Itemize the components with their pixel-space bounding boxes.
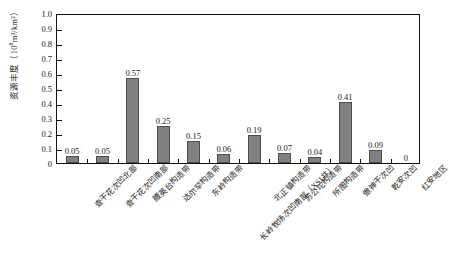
y-axis-title: 资源丰度（108m³/km²） <box>8 0 19 114</box>
bar <box>369 150 382 164</box>
y-axis-tick-mark <box>57 135 62 136</box>
x-axis-tick-mark <box>148 159 149 163</box>
bar-value-label: 0 <box>389 154 423 163</box>
plot-area: 0.050.050.570.250.150.060.190.070.040.41… <box>56 14 420 164</box>
y-axis-title-name: 资源丰度（10 <box>9 45 19 100</box>
bar-value-label: 0.19 <box>237 126 271 135</box>
x-axis-category-labels: 查干花次凹北部查干花次凹南部腰英台构造带达尔罕构造带东岭构造带长岭牧场次凹南部（… <box>56 164 446 269</box>
bar <box>96 156 109 164</box>
bar <box>248 135 261 164</box>
y-axis-tick-label: 0.4 <box>22 100 52 109</box>
x-axis-tick-mark <box>300 159 301 163</box>
y-axis-tick-label: 0 <box>22 160 52 169</box>
y-axis-tick-label: 0.5 <box>22 85 52 94</box>
x-axis-tick-mark <box>118 159 119 163</box>
y-axis-tick-mark <box>57 105 62 106</box>
y-axis-tick-mark <box>57 120 62 121</box>
bar <box>278 153 291 164</box>
bar <box>66 156 79 164</box>
bar-value-label: 0.57 <box>116 69 150 78</box>
x-axis-tick-mark <box>178 159 179 163</box>
bar-value-label: 0.06 <box>207 145 241 154</box>
bar-value-label: 0.05 <box>86 147 120 156</box>
x-axis-category-label: 红安地区 <box>420 164 449 193</box>
x-axis-tick-mark <box>269 159 270 163</box>
y-axis-tick-mark <box>57 90 62 91</box>
bar <box>157 126 170 164</box>
y-axis-tick-label: 1.0 <box>22 10 52 19</box>
y-axis-tick-mark <box>57 75 62 76</box>
bar <box>217 154 230 163</box>
bar-value-label: 0.05 <box>55 147 89 156</box>
y-axis-title-exponent: 8 <box>8 42 14 45</box>
bar <box>126 78 139 164</box>
x-axis-tick-mark <box>239 159 240 163</box>
plot-inner: 0.050.050.570.250.150.060.190.070.040.41… <box>57 15 419 163</box>
x-axis-category-label: 傲神干次凹 <box>362 164 397 199</box>
y-axis-tick-label: 0.9 <box>22 25 52 34</box>
y-axis-tick-mark <box>57 60 62 61</box>
y-axis-tick-label: 0.3 <box>22 115 52 124</box>
x-axis-tick-mark <box>209 159 210 163</box>
bar <box>339 102 352 164</box>
y-axis-title-unit: m³/km²） <box>9 7 19 42</box>
bar-value-label: 0.25 <box>146 117 180 126</box>
x-axis-tick-mark <box>87 159 88 163</box>
y-axis-tick-mark <box>57 45 62 46</box>
y-axis-tick-label: 0.1 <box>22 145 52 154</box>
x-axis-tick-mark <box>360 159 361 163</box>
bar-value-label: 0.09 <box>359 141 393 150</box>
bar <box>308 157 321 163</box>
y-axis-tick-label: 0.8 <box>22 40 52 49</box>
bar-value-label: 0.04 <box>298 148 332 157</box>
bar-value-label: 0.07 <box>268 144 302 153</box>
y-axis-tick-label: 0.6 <box>22 70 52 79</box>
bar <box>187 141 200 164</box>
y-axis-tick-mark <box>57 30 62 31</box>
y-axis-tick-labels: 00.10.20.30.40.50.60.70.80.91.0 <box>22 14 52 164</box>
bar-value-label: 0.15 <box>177 132 211 141</box>
y-axis-tick-label: 0.7 <box>22 55 52 64</box>
bar-value-label: 0.41 <box>328 93 362 102</box>
y-axis-tick-label: 0.2 <box>22 130 52 139</box>
